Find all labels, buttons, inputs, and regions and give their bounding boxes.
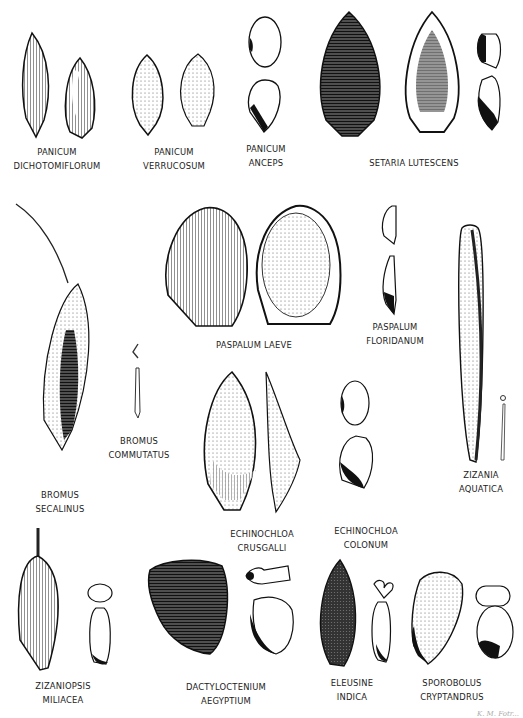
genus-label: PANICUM [13, 145, 100, 159]
species-label: COLONUM [334, 538, 398, 552]
species-label: COMMUTATUS [108, 448, 169, 462]
species-label: INDICA [331, 690, 373, 704]
label-panicum-verrucosum: PANICUM VERRUCOSUM [143, 145, 205, 173]
panicum-dichotomiflorum-drawing [23, 33, 95, 138]
genus-label: PASPALUM [366, 320, 424, 334]
label-bromus-secalinus: BROMUS SECALINUS [36, 488, 85, 516]
genus-label: PANICUM [246, 142, 286, 156]
genus-label: ZIZANIOPSIS [35, 679, 90, 693]
bromus-commutatus-drawing [133, 344, 140, 418]
label-panicum-dichotomiflorum: PANICUM DICHOTOMIFLORUM [13, 145, 100, 173]
sporobolus-cryptandrus-drawing [412, 572, 513, 664]
species-label: SETARIA LUTESCENS [369, 156, 459, 170]
panicum-verrucosum-drawing [132, 54, 214, 135]
label-echinochloa-colonum: ECHINOCHLOA COLONUM [334, 524, 398, 552]
species-label: VERRUCOSUM [143, 159, 205, 173]
genus-label: DACTYLOCTENIUM [186, 680, 266, 694]
species-label: CRUSGALLI [230, 541, 294, 555]
genus-label: BROMUS [108, 434, 169, 448]
species-label: FLORIDANUM [366, 334, 424, 348]
genus-label: ZIZANIA [459, 468, 503, 482]
label-bromus-commutatus: BROMUS COMMUTATUS [108, 434, 169, 462]
label-dactyloctenium-aegyptium: DACTYLOCTENIUM AEGYPTIUM [186, 680, 266, 708]
seed-illustration-plate: PANICUM DICHOTOMIFLORUM PANICUM VERRUCOS… [0, 0, 523, 718]
species-label: AQUATICA [459, 482, 503, 496]
genus-label: SPOROBOLUS [420, 676, 484, 690]
echinochloa-crusgalli-drawing [204, 372, 300, 512]
genus-label: ELEUSINE [331, 676, 373, 690]
panicum-anceps-drawing [249, 17, 281, 132]
zizania-aquatica-drawing [459, 225, 506, 462]
label-zizaniopsis-miliacea: ZIZANIOPSIS MILIACEA [35, 679, 90, 707]
species-label: MILIACEA [35, 693, 90, 707]
genus-label: ECHINOCHLOA [230, 527, 294, 541]
species-label: CRYPTANDRUS [420, 690, 484, 704]
dactyloctenium-aegyptium-drawing [148, 560, 293, 654]
label-zizania-aquatica: ZIZANIA AQUATICA [459, 468, 503, 496]
label-setaria-lutescens: SETARIA LUTESCENS [369, 156, 459, 170]
artist-signature: K. M. Fotr... [477, 710, 519, 718]
label-paspalum-laeve: PASPALUM LAEVE [216, 338, 292, 352]
label-echinochloa-crusgalli: ECHINOCHLOA CRUSGALLI [230, 527, 294, 555]
zizaniopsis-miliacea-drawing [19, 528, 112, 670]
species-label: DICHOTOMIFLORUM [13, 159, 100, 173]
echinochloa-colonum-drawing [340, 381, 373, 488]
bromus-secalinus-drawing [16, 204, 89, 450]
paspalum-laeve-drawing [166, 206, 341, 326]
label-sporobolus-cryptandrus: SPOROBOLUS CRYPTANDRUS [420, 676, 484, 704]
label-paspalum-floridanum: PASPALUM FLORIDANUM [366, 320, 424, 348]
genus-label: BROMUS [36, 488, 85, 502]
illustrations [0, 0, 523, 718]
eleusine-indica-drawing [321, 560, 394, 666]
paspalum-floridanum-drawing [382, 206, 396, 314]
species-label: SECALINUS [36, 502, 85, 516]
genus-label: PANICUM [143, 145, 205, 159]
species-label: AEGYPTIUM [186, 694, 266, 708]
label-eleusine-indica: ELEUSINE INDICA [331, 676, 373, 704]
species-label: PASPALUM LAEVE [216, 338, 292, 352]
genus-label: ECHINOCHLOA [334, 524, 398, 538]
label-panicum-anceps: PANICUM ANCEPS [246, 142, 286, 170]
setaria-lutescens-drawing [321, 12, 501, 136]
species-label: ANCEPS [246, 156, 286, 170]
